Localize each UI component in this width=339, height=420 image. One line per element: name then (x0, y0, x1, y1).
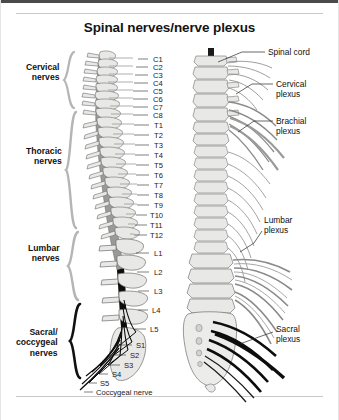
vertebra-label-s4: S4 (112, 370, 121, 379)
label-line: plexus (276, 334, 300, 344)
leader-lumbar-plexus (240, 231, 262, 252)
cervical-vertebrae-anterior (193, 56, 229, 145)
lumbar-vertebrae-lateral (116, 239, 148, 324)
vertebra-label-l2: L2 (154, 268, 162, 277)
vertebra-label-l4: L4 (152, 306, 160, 315)
vertebra-label-s1: S1 (136, 341, 145, 350)
vertebra-label-c8: C8 (153, 111, 163, 120)
group-label-lumbar-nerves: Lumbarnerves (28, 243, 60, 264)
label-lumbar-plexus: Lumbarplexus (264, 215, 292, 235)
group-label-line: Cervical (26, 62, 59, 72)
vertebra-label-t2: T2 (154, 131, 163, 140)
label-line: Lumbar (264, 215, 292, 225)
label-line: Spinal cord (268, 47, 310, 57)
group-label-sacral-coccygeal-nerves: Sacral/coccygealnerves (16, 327, 58, 358)
group-brackets (64, 52, 80, 378)
coccygeal-nerve-label: Coccygeal nerve (96, 388, 153, 397)
vertebra-label-t6: T6 (154, 171, 163, 180)
group-label-line: nerves (26, 156, 62, 166)
vertebra-label-t12: T12 (150, 231, 163, 240)
group-label-thoracic-nerves: Thoracicnerves (26, 146, 62, 167)
label-line: Brachial (276, 116, 306, 126)
label-line: plexus (264, 225, 292, 235)
sacrum-anterior (183, 312, 236, 392)
cervical-vertebrae-lateral (95, 51, 121, 119)
group-label-line: Lumbar (28, 243, 60, 253)
vertebra-label-l3: L3 (154, 287, 162, 296)
vertebra-label-t5: T5 (154, 161, 163, 170)
label-line: Cervical (276, 79, 306, 89)
group-label-line: nerves (16, 348, 58, 358)
vertebra-label-s3: S3 (124, 361, 133, 370)
vertebra-label-t7: T7 (154, 181, 163, 190)
figure-root: Spinal nerves/nerve plexus (0, 0, 339, 420)
group-label-line: Sacral/ (16, 327, 58, 337)
vertebra-label-t11: T11 (150, 221, 163, 230)
vertebra-label-s2: S2 (130, 351, 139, 360)
vertebra-label-t9: T9 (154, 201, 163, 210)
lateral-spine-view (80, 51, 148, 390)
group-label-line: Thoracic (26, 146, 62, 156)
vertebra-label-l5: L5 (150, 325, 158, 334)
lumbar-vertebrae-anterior (187, 254, 235, 313)
bracket-cervical (64, 52, 74, 108)
bracket-lumbar (68, 232, 78, 300)
bracket-sacral (70, 304, 80, 378)
group-label-line: nerves (28, 253, 60, 263)
label-line: plexus (276, 89, 306, 99)
label-line: plexus (276, 126, 306, 136)
label-cervical-plexus: Cervicalplexus (276, 79, 306, 99)
vertebra-label-l1: L1 (154, 249, 162, 258)
label-sacral-plexus: Sacralplexus (276, 324, 300, 344)
label-spinal-cord: Spinal cord (268, 47, 310, 57)
vertebra-label-t1: T1 (154, 121, 163, 130)
coccyx (205, 384, 215, 392)
vertebra-label-t10: T10 (150, 211, 163, 220)
thoracic-vertebrae-anterior (194, 146, 228, 253)
group-label-line: coccygeal (16, 337, 58, 347)
vertebra-label-s5: S5 (100, 379, 109, 388)
label-brachial-plexus: Brachialplexus (276, 116, 306, 136)
vertebra-label-t4: T4 (154, 151, 163, 160)
label-line: Sacral (276, 324, 300, 334)
group-label-line: nerves (26, 72, 59, 82)
vertebra-label-t8: T8 (154, 191, 163, 200)
bracket-thoracic (66, 112, 76, 228)
group-label-cervical-nerves: Cervicalnerves (26, 62, 59, 83)
vertebra-label-t3: T3 (154, 141, 163, 150)
